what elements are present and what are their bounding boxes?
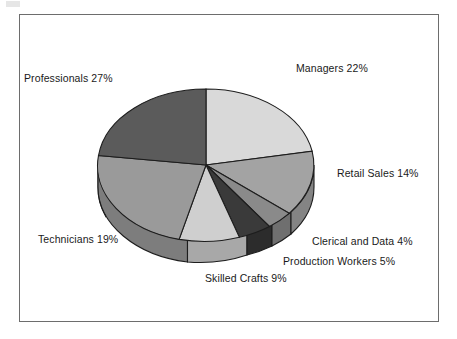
pie-top-face (98, 89, 314, 241)
chart-page: Managers 22% Retail Sales 14% Clerical a… (0, 0, 457, 339)
pie-chart-area: Managers 22% Retail Sales 14% Clerical a… (0, 0, 457, 339)
pie-label-retail-sales: Retail Sales 14% (337, 167, 419, 179)
pie-label-skilled-crafts: Skilled Crafts 9% (205, 272, 287, 284)
pie-label-managers: Managers 22% (296, 62, 368, 74)
pie-label-clerical-and-data: Clerical and Data 4% (312, 235, 413, 247)
pie-label-production-workers: Production Workers 5% (283, 255, 395, 267)
pie-label-technicians: Technicians 19% (38, 233, 118, 245)
pie-slice-professionals[interactable] (99, 89, 207, 165)
pie-label-professionals: Professionals 27% (24, 72, 113, 84)
pie-chart-svg (96, 45, 328, 275)
